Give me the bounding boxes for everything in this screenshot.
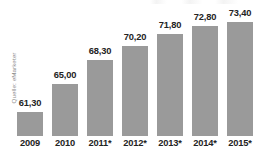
bar[interactable] xyxy=(17,112,43,136)
x-axis-tick-label: 2014* xyxy=(185,138,225,148)
x-axis-tick-label: 2013* xyxy=(150,138,190,148)
x-axis-tick-label: 2011* xyxy=(80,138,120,148)
bar-chart: Quelle: eMarketer 61,30200965,00201068,3… xyxy=(0,0,263,160)
bar-value-label: 72,80 xyxy=(186,12,224,22)
bar-group: 68,302011* xyxy=(87,0,113,160)
bar-value-label: 65,00 xyxy=(46,70,84,80)
bar[interactable] xyxy=(52,84,78,136)
bar-value-label: 68,30 xyxy=(81,46,119,56)
bar[interactable] xyxy=(157,34,183,136)
x-axis-tick-label: 2009 xyxy=(10,138,50,148)
x-axis-tick-label: 2010 xyxy=(45,138,85,148)
bar-value-label: 71,80 xyxy=(151,20,189,30)
bar-group: 70,202012* xyxy=(122,0,148,160)
bar[interactable] xyxy=(87,60,113,136)
bar[interactable] xyxy=(122,46,148,136)
bar-group: 61,302009 xyxy=(17,0,43,160)
bar-value-label: 70,20 xyxy=(116,32,154,42)
bar-value-label: 61,30 xyxy=(11,98,49,108)
bar-value-label: 73,40 xyxy=(221,8,259,18)
bar-group: 71,802013* xyxy=(157,0,183,160)
bar-group: 65,002010 xyxy=(52,0,78,160)
x-axis-tick-label: 2015* xyxy=(220,138,260,148)
bar[interactable] xyxy=(192,26,218,136)
bar-group: 73,402015* xyxy=(227,0,253,160)
bar-group: 72,802014* xyxy=(192,0,218,160)
x-axis-tick-label: 2012* xyxy=(115,138,155,148)
bar[interactable] xyxy=(227,22,253,136)
chart-plot-area: 61,30200965,00201068,302011*70,202012*71… xyxy=(17,0,263,160)
